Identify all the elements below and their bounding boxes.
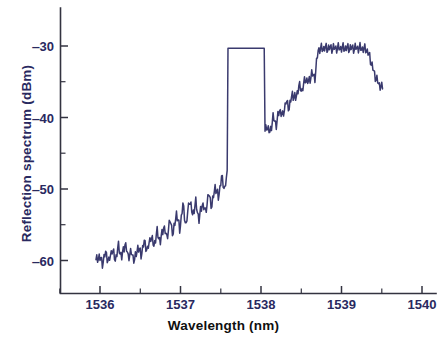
- x-tick-label: 1536: [86, 297, 115, 312]
- x-tick-label: 1538: [247, 297, 276, 312]
- x-tick-label: 1537: [166, 297, 195, 312]
- y-tick-label: ‒60: [31, 254, 54, 269]
- y-tick-label: ‒40: [31, 111, 54, 126]
- x-axis-title: Wavelength (nm): [0, 318, 447, 333]
- y-tick-label: ‒50: [31, 182, 54, 197]
- spectrum-figure: ‒30 ‒40 ‒50 ‒60 1536 1537 1538 1539 1540…: [0, 0, 447, 345]
- x-tick-label: 1540: [408, 297, 437, 312]
- x-major-ticks: [100, 286, 422, 294]
- y-axis-title: Reflection spectrum (dBm): [19, 24, 34, 284]
- spectrum-trace: [96, 43, 383, 269]
- reflection-spectrum-plot: ‒30 ‒40 ‒50 ‒60 1536 1537 1538 1539 1540: [0, 0, 447, 345]
- x-tick-label: 1539: [327, 297, 356, 312]
- y-tick-label: ‒30: [31, 39, 54, 54]
